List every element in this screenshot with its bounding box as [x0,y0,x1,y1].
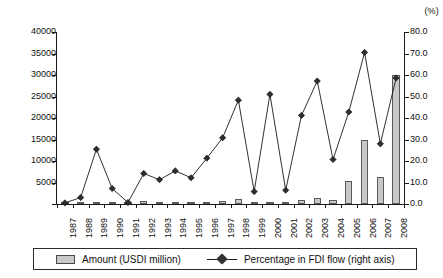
x-tick-label: 1990 [116,218,125,238]
y-tick-label-right: 0.0 [410,199,443,208]
secondary-axis-unit-label: (%) [424,6,439,16]
y-tick-mark-right [405,183,409,184]
data-point-marker [393,75,399,81]
plot-area [57,32,404,204]
line-series [57,32,404,204]
x-tick-label: 2003 [321,218,330,238]
data-point-marker [172,168,178,174]
legend-label-percentage: Percentage in FDI flow (right axis) [244,254,395,265]
data-point-marker [251,188,257,194]
x-tick-label: 1988 [85,218,94,238]
y-tick-label-right: 50.0 [410,92,443,101]
data-point-marker [283,187,289,193]
x-tick-label: 2000 [274,218,283,238]
y-tick-label-left: 10000 [10,156,56,165]
y-tick-mark-right [405,75,409,76]
y-tick-mark-left [52,140,56,141]
y-tick-mark-right [405,161,409,162]
y-tick-mark-right [405,54,409,55]
y-tick-label-left: 5000 [10,178,56,187]
x-tick-label: 2007 [384,218,393,238]
y-tick-label-left: 15000 [10,135,56,144]
line-path [65,52,396,203]
x-tick-label: 2002 [305,218,314,238]
data-point-marker [235,97,241,103]
y-tick-mark-right [405,140,409,141]
bar-swatch-icon [56,255,75,264]
y-tick-mark-left [52,204,56,205]
data-point-marker [314,78,320,84]
y-tick-label-right: 20.0 [410,156,443,165]
y-tick-mark-left [52,97,56,98]
x-tick-mark [404,204,405,208]
y-tick-label-right: 40.0 [410,113,443,122]
y-tick-mark-left [52,183,56,184]
y-tick-mark-left [52,54,56,55]
x-tick-label: 2004 [337,218,346,238]
data-point-marker [93,146,99,152]
data-point-marker [346,109,352,115]
legend-item-amount: Amount (USDI million) [56,254,181,265]
y-tick-label-left: 20000 [10,113,56,122]
x-tick-label: 1993 [164,218,173,238]
y-tick-mark-right [405,97,409,98]
data-point-marker [141,170,147,176]
x-tick-label: 2006 [369,218,378,238]
y-tick-label-right: 30.0 [410,135,443,144]
y-tick-mark-right [405,118,409,119]
y-tick-label-right: 80.0 [410,27,443,36]
y-tick-mark-right [405,32,409,33]
legend-label-amount: Amount (USDI million) [82,254,181,265]
y-tick-label-left: 30000 [10,70,56,79]
y-tick-label-left: 25000 [10,92,56,101]
x-tick-label: 1989 [100,218,109,238]
legend-item-percentage: Percentage in FDI flow (right axis) [207,254,395,265]
x-tick-label: 1994 [179,218,188,238]
y-tick-mark-left [52,118,56,119]
y-tick-mark-left [52,75,56,76]
y-tick-label-right: 70.0 [410,49,443,58]
y-tick-label-right: 10.0 [410,178,443,187]
data-point-marker [330,156,336,162]
y-tick-label-left: 40000 [10,27,56,36]
x-tick-label: 1987 [69,218,78,238]
x-tick-label: 1991 [132,218,141,238]
data-point-marker [78,194,84,200]
y-tick-label-right: 60.0 [410,70,443,79]
x-tick-label: 1999 [258,218,267,238]
x-tick-label: 1995 [195,218,204,238]
y-tick-mark-right [405,204,409,205]
x-axis-labels: 1987198819891990199119921993199419951996… [57,206,404,242]
y-tick-mark-left [52,32,56,33]
chart-figure: (%) 500010000150002000025000300003500040… [0,0,443,278]
data-point-marker [361,49,367,55]
y-tick-label-left: 35000 [10,49,56,58]
y-tick-mark-left [52,161,56,162]
x-tick-label: 2001 [290,218,299,238]
line-marker-swatch-icon [207,255,237,264]
data-point-marker [156,177,162,183]
x-tick-label: 1996 [211,218,220,238]
data-point-marker [267,91,273,97]
x-tick-label: 1998 [242,218,251,238]
data-point-marker [377,141,383,147]
data-point-marker [298,112,304,118]
x-tick-label: 1992 [148,218,157,238]
chart-legend: Amount (USDI million) Percentage in FDI … [33,248,417,270]
x-tick-label: 2008 [400,218,409,238]
x-tick-label: 1997 [227,218,236,238]
x-tick-label: 2005 [353,218,362,238]
